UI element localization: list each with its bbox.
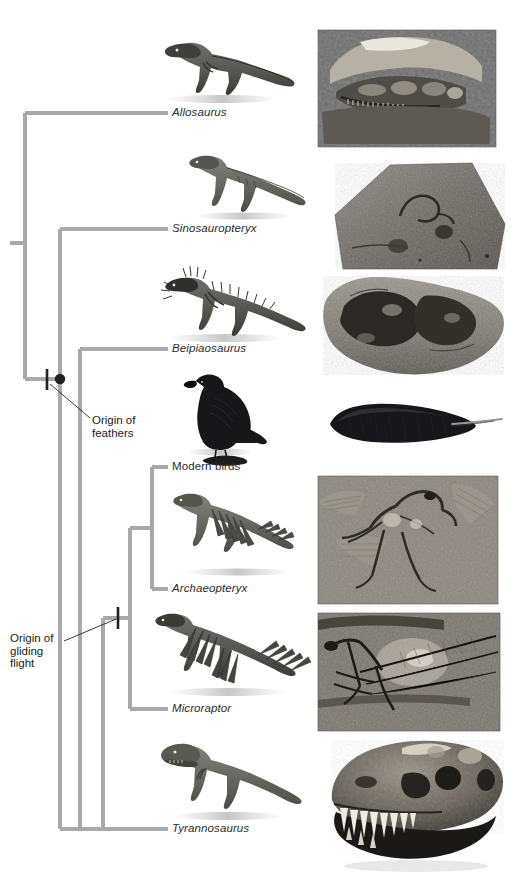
- taxon-label-modern-birds: Modern birds: [172, 460, 240, 473]
- microraptor-illustration: [155, 614, 311, 696]
- archaeopteryx-illustration: [173, 494, 294, 576]
- tyrannosaurus-skull: [332, 741, 503, 872]
- allosaurus-skull-fossil: [318, 30, 496, 147]
- taxon-label-microraptor: Microraptor: [172, 702, 231, 715]
- annotation-origin-of-feathers: Origin of feathers: [92, 414, 135, 439]
- cladogram-branch-layer: [0, 0, 522, 895]
- allosaurus-illustration: [165, 43, 295, 103]
- taxon-label-tyrannosaurus: Tyrannosaurus: [172, 822, 249, 835]
- node-dot-feathers: [55, 374, 65, 384]
- taxon-label-sinosauropteryx: Sinosauropteryx: [172, 222, 257, 235]
- taxon-label-archaeopteryx: Archaeopteryx: [172, 582, 247, 595]
- modern-bird-illustration: [184, 375, 267, 466]
- beipiaosaurus-illustration: [161, 266, 306, 342]
- beipiaosaurus-fossil: [323, 277, 504, 374]
- taxon-label-beipiaosaurus: Beipiaosaurus: [172, 342, 246, 355]
- taxon-label-allosaurus: Allosaurus: [172, 106, 227, 119]
- cladogram-figure: Allosaurus Sinosauropteryx Beipiaosaurus…: [0, 0, 522, 895]
- modern-bird-feather: [330, 404, 502, 443]
- leader-line-gliding-flight: [64, 619, 116, 641]
- annotation-origin-of-gliding-flight: Origin of gliding flight: [10, 632, 53, 670]
- archaeopteryx-fossil: [318, 476, 498, 604]
- sinosauropteryx-slab-fossil: [335, 163, 505, 269]
- sinosauropteryx-illustration: [189, 156, 305, 220]
- microraptor-fossil: [318, 613, 500, 731]
- tyrannosaurus-illustration: [161, 744, 302, 820]
- leader-line-feathers: [50, 384, 90, 418]
